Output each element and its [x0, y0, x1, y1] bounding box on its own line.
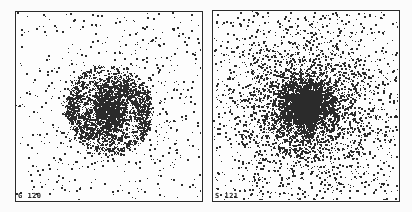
panel-label-right: S 121	[215, 192, 239, 200]
simulation-panel-right: S 121	[212, 10, 400, 202]
simulation-panel-left: G 120	[15, 11, 203, 202]
particle-scatter-right	[213, 11, 398, 200]
panel-label-left: G 120	[18, 192, 42, 200]
particle-scatter-left	[16, 12, 201, 200]
